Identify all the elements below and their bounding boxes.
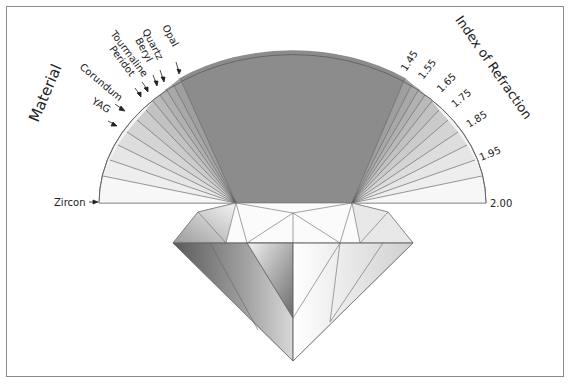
ri-tick-1-85: 1.85 <box>464 109 489 130</box>
ri-tick-1-95: 1.95 <box>478 144 503 163</box>
material-label-corundum: Corundum <box>78 61 125 103</box>
diamond-illustration <box>173 203 413 361</box>
refraction-axis-title: Index of Refraction <box>452 13 535 122</box>
ri-tick-1-65: 1.65 <box>435 71 459 95</box>
ri-tick-1-75: 1.75 <box>449 87 473 110</box>
ri-tick-1-55: 1.55 <box>416 57 438 81</box>
material-label-yag: YAG <box>89 95 112 115</box>
refraction-diagram: Material Index of Refraction Opal Quartz… <box>0 0 572 385</box>
ri-tick-1-45: 1.45 <box>398 48 419 73</box>
material-label-opal: Opal <box>160 23 181 49</box>
material-label-zircon: Zircon <box>54 197 85 208</box>
material-axis-title: Material <box>25 61 65 124</box>
ri-tick-2-00: 2.00 <box>490 198 512 209</box>
